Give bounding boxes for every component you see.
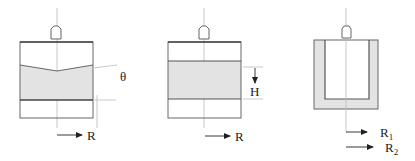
- outer-radius-label: R2: [385, 140, 398, 157]
- gap-label: H: [250, 84, 259, 99]
- shaft-knob-icon: [51, 26, 61, 39]
- couette-figure: R1 R2: [314, 8, 398, 157]
- sample-fill: [168, 61, 241, 99]
- angle-label: θ: [120, 69, 126, 84]
- inner-cylinder: [325, 40, 369, 99]
- sample-fill: [20, 65, 93, 100]
- parallel-plate-figure: H R: [168, 8, 263, 144]
- radius-label: R: [235, 129, 244, 144]
- radius-label: R: [87, 128, 96, 143]
- cone-plate-figure: θ R: [20, 8, 126, 143]
- rheometer-geometries-diagram: θ R H R R1 R2: [0, 0, 415, 161]
- shaft-knob-icon: [199, 26, 209, 39]
- shaft-knob-icon: [342, 26, 351, 38]
